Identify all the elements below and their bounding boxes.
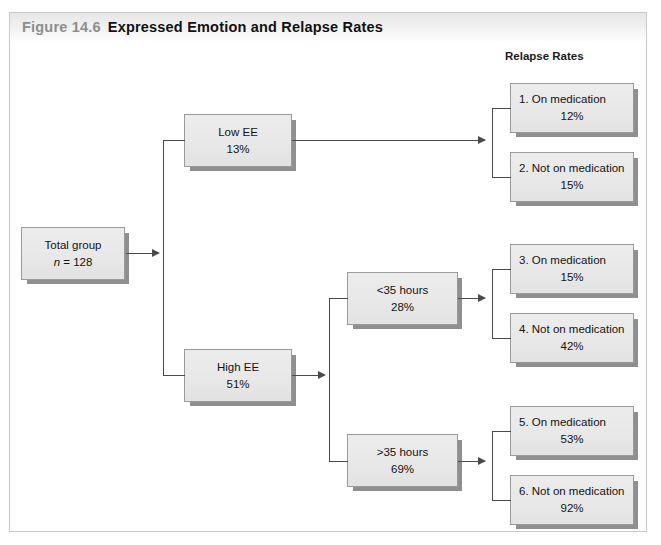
node-relapse-1[interactable]: 1. On medication 12%: [510, 83, 634, 133]
connector-low-ee-to-bracket: [292, 140, 485, 141]
node-relapse-2-value: 15%: [560, 177, 591, 194]
connector-spine-to-lt35: [329, 298, 348, 299]
node-relapse-5[interactable]: 5. On medication 53%: [510, 406, 634, 456]
figure-caption: Figure 14.6Expressed Emotion and Relapse…: [22, 18, 383, 36]
arrowhead-high-ee-to-split: [318, 371, 326, 379]
node-low-ee-value: 13%: [226, 141, 249, 158]
node-relapse-1-label: 1. On medication: [519, 91, 606, 108]
node-relapse-6-label: 6. Not on medication: [519, 483, 624, 500]
node-relapse-5-label: 5. On medication: [519, 414, 606, 431]
node-relapse-6[interactable]: 6. Not on medication 92%: [510, 475, 634, 525]
node-high-ee-value: 51%: [226, 376, 249, 393]
bracket-branch-to-relapse-6: [492, 500, 511, 501]
bracket-spine-3-4: [492, 269, 493, 338]
node-relapse-3[interactable]: 3. On medication 15%: [510, 244, 634, 294]
n-value: = 128: [60, 256, 92, 268]
bracket-spine-1-2: [492, 108, 493, 177]
bracket-branch-to-relapse-5: [492, 431, 511, 432]
bracket-branch-to-relapse-1: [492, 108, 511, 109]
node-relapse-4-label: 4. Not on medication: [519, 321, 624, 338]
node-gt35-hours-label: >35 hours: [377, 444, 428, 461]
node-total-group[interactable]: Total group n = 128: [21, 227, 125, 280]
connector-spine-to-gt35: [329, 461, 348, 462]
node-relapse-4-value: 42%: [560, 338, 591, 355]
node-total-group-label: Total group: [45, 237, 102, 254]
node-lt35-hours[interactable]: <35 hours 28%: [347, 272, 458, 325]
page-title: Expressed Emotion and Relapse Rates: [108, 19, 383, 35]
bracket-spine-5-6: [492, 431, 493, 500]
node-lt35-hours-value: 28%: [391, 299, 414, 316]
node-high-ee-label: High EE: [217, 359, 259, 376]
node-high-ee[interactable]: High EE 51%: [184, 349, 292, 402]
connector-hours-spine: [329, 298, 330, 461]
bracket-branch-to-relapse-4: [492, 338, 511, 339]
relapse-rates-column-header: Relapse Rates: [505, 50, 655, 62]
arrowhead-low-ee-to-bracket: [478, 136, 486, 144]
node-relapse-3-value: 15%: [560, 269, 591, 286]
figure-container: Figure 14.6Expressed Emotion and Relapse…: [0, 0, 661, 545]
arrowhead-gt35-to-bracket: [478, 457, 486, 465]
node-relapse-4[interactable]: 4. Not on medication 42%: [510, 313, 634, 363]
arrowhead-lt35-to-bracket: [478, 294, 486, 302]
connector-ee-spine: [163, 140, 164, 375]
node-lt35-hours-label: <35 hours: [377, 282, 428, 299]
connector-spine-to-low-ee: [163, 140, 185, 141]
bracket-branch-to-relapse-2: [492, 177, 511, 178]
connector-spine-to-high-ee: [163, 375, 185, 376]
node-gt35-hours-value: 69%: [391, 461, 414, 478]
arrowhead-total-to-split: [152, 249, 160, 257]
figure-number: Figure 14.6: [22, 19, 101, 35]
node-relapse-5-value: 53%: [560, 431, 591, 448]
node-relapse-1-value: 12%: [560, 108, 591, 125]
bracket-branch-to-relapse-3: [492, 269, 511, 270]
node-low-ee-label: Low EE: [218, 124, 258, 141]
node-relapse-2-label: 2. Not on medication: [519, 160, 624, 177]
node-relapse-2[interactable]: 2. Not on medication 15%: [510, 152, 634, 202]
node-relapse-6-value: 92%: [560, 500, 591, 517]
node-relapse-3-label: 3. On medication: [519, 252, 606, 269]
node-total-group-n: n = 128: [54, 254, 93, 271]
node-low-ee[interactable]: Low EE 13%: [184, 114, 292, 167]
node-gt35-hours[interactable]: >35 hours 69%: [347, 434, 458, 487]
